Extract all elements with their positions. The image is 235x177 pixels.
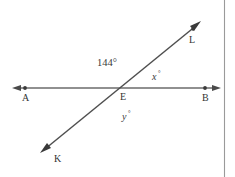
point-label-b: B [202,92,209,103]
point-a-marker [23,86,27,90]
point-label-e: E [120,91,126,102]
geometry-diagram: A B E K L 144° x ° y ° [0,0,235,177]
point-l-marker [191,27,195,31]
angle-label-144: 144° [97,57,117,68]
svg-text:x: x [151,71,157,82]
degree-symbol-y: ° [128,109,131,116]
line-kl [40,21,201,153]
point-k-marker [45,145,49,149]
arrowhead-b [212,85,221,91]
angle-label-x: x ° [151,69,161,82]
point-b-marker [203,86,207,90]
line-kl-segment [45,25,197,149]
svg-text:y: y [121,111,127,122]
angle-label-y: y ° [121,109,131,122]
degree-symbol-x: ° [158,69,161,76]
geometry-canvas: A B E K L 144° x ° y ° [0,0,235,177]
point-label-k: K [54,153,62,164]
arrowhead-a [12,85,21,91]
point-label-a: A [22,92,30,103]
point-label-l: L [189,34,195,45]
